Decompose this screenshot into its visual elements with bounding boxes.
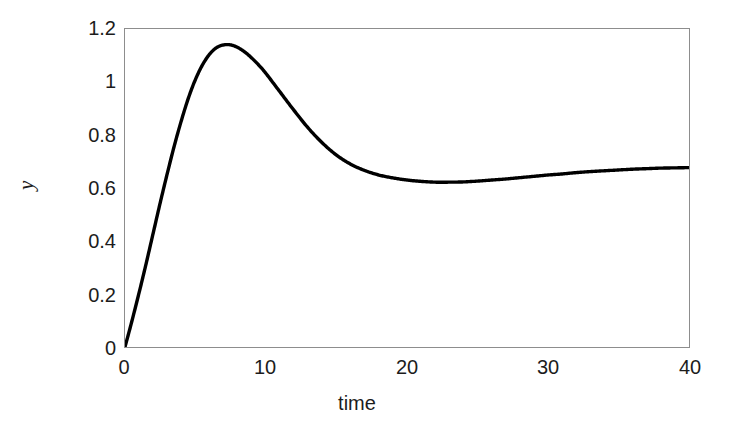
y-axis-title: y — [14, 181, 39, 190]
y-tick-label-wrap: 0.6 — [50, 178, 116, 198]
x-tick-label: 10 — [230, 356, 300, 378]
x-tick-label: 20 — [372, 356, 442, 378]
y-tick-label: 0.8 — [56, 125, 116, 145]
x-tick-label: 30 — [513, 356, 583, 378]
y-tick-label-wrap: 0.4 — [50, 231, 116, 251]
y-tick-label: 0.4 — [56, 231, 116, 251]
y-tick-label: 0.2 — [56, 285, 116, 305]
figure-container: y 1.2 1 0.8 0.6 0.4 0.2 0 0 10 20 30 40 … — [0, 0, 736, 435]
x-axis-title-text: time — [338, 392, 376, 414]
plot-area — [124, 28, 690, 348]
y-tick-label-wrap: 0.8 — [50, 125, 116, 145]
y-tick-label-wrap: 0 — [50, 338, 116, 358]
x-tick-label: 0 — [89, 356, 159, 378]
response-curve-svg — [125, 29, 689, 347]
y-tick-label-wrap: 1 — [50, 71, 116, 91]
response-curve — [125, 45, 689, 347]
x-tick-label: 40 — [655, 356, 725, 378]
y-tick-label-wrap: 1.2 — [50, 18, 116, 38]
y-tick-label: 0.6 — [56, 178, 116, 198]
y-tick-label: 1 — [56, 71, 116, 91]
y-tick-label: 0 — [56, 338, 116, 358]
y-tick-label: 1.2 — [56, 18, 116, 38]
y-tick-label-wrap: 0.2 — [50, 285, 116, 305]
x-axis-title: time — [0, 392, 736, 415]
